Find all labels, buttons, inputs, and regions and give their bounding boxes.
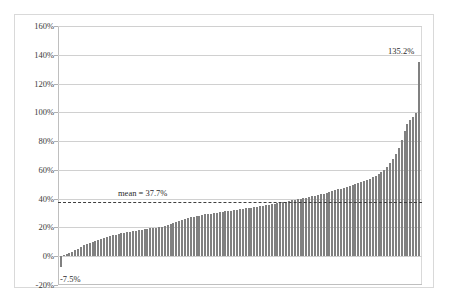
bar	[77, 249, 79, 256]
bar	[386, 167, 388, 256]
bar	[207, 214, 209, 256]
bar	[178, 221, 180, 256]
bar	[167, 225, 169, 256]
bar	[89, 243, 91, 256]
bar	[80, 247, 82, 256]
bar	[357, 183, 359, 256]
plot-area	[58, 26, 422, 285]
bar	[288, 201, 290, 256]
bar	[245, 208, 247, 256]
bar	[112, 235, 114, 256]
bar	[337, 189, 339, 256]
bar	[201, 215, 203, 256]
bar	[71, 252, 73, 256]
bar	[375, 176, 377, 256]
bar	[314, 196, 316, 256]
bar	[363, 181, 365, 256]
bar	[144, 229, 146, 256]
bar	[311, 196, 313, 256]
bar	[216, 213, 218, 256]
bar	[129, 232, 131, 256]
y-axis-tick-label: 120%	[4, 80, 54, 89]
bar	[268, 205, 270, 256]
bar	[109, 236, 111, 256]
bar	[60, 256, 62, 267]
bar	[74, 250, 76, 256]
bar	[233, 210, 235, 256]
bar	[204, 214, 206, 256]
bar	[401, 140, 403, 257]
bar	[300, 199, 302, 257]
bar	[239, 209, 241, 256]
bar	[248, 208, 250, 256]
bar	[294, 200, 296, 256]
bar	[242, 209, 244, 256]
bar	[369, 179, 371, 257]
bar	[418, 62, 420, 257]
bar	[323, 194, 325, 257]
bar	[230, 211, 232, 257]
bar	[164, 226, 166, 256]
bar	[170, 224, 172, 256]
bar	[132, 231, 134, 256]
bar	[409, 120, 411, 257]
bar	[334, 190, 336, 256]
y-axis-tick-label: 60%	[4, 166, 54, 175]
bar	[378, 174, 380, 256]
bar	[282, 202, 284, 256]
y-axis-tick-label: 20%	[4, 223, 54, 232]
bar	[250, 208, 252, 257]
y-axis-tick-label: 160%	[4, 22, 54, 31]
bar	[343, 188, 345, 256]
bar	[138, 230, 140, 256]
bar	[415, 113, 417, 256]
bar	[308, 197, 310, 256]
bar	[253, 207, 255, 256]
bar	[262, 206, 264, 256]
bar	[86, 244, 88, 256]
bar	[63, 255, 65, 256]
bar	[291, 200, 293, 256]
y-axis-tick-label: 80%	[4, 137, 54, 146]
bar	[158, 227, 160, 256]
bar	[172, 223, 174, 256]
chart-root: 160%140%120%100%80%60%40%20%0%-20% mean …	[0, 0, 450, 300]
y-axis-tick-label: 40%	[4, 195, 54, 204]
bar	[395, 154, 397, 256]
bar	[383, 170, 385, 256]
bar	[118, 234, 120, 256]
bar	[271, 204, 273, 256]
bar	[103, 238, 105, 256]
bar	[141, 230, 143, 256]
y-axis-tick-label: 0%	[4, 252, 54, 261]
y-axis-labels: 160%140%120%100%80%60%40%20%0%-20%	[0, 0, 54, 300]
bar	[135, 231, 137, 257]
bar	[181, 220, 183, 256]
mean-reference-line	[58, 202, 422, 203]
bar	[106, 237, 108, 256]
bar	[340, 189, 342, 257]
bar	[392, 159, 394, 256]
bar-series	[58, 26, 422, 285]
bar	[152, 228, 154, 256]
bar	[317, 195, 319, 256]
y-axis-tick-label: 100%	[4, 108, 54, 117]
bar	[305, 198, 307, 257]
bar	[276, 203, 278, 256]
bar	[161, 227, 163, 257]
bar	[92, 242, 94, 257]
bar	[349, 186, 351, 256]
bar	[354, 184, 356, 256]
bar	[210, 214, 212, 257]
bar	[222, 212, 224, 256]
bar	[224, 211, 226, 256]
bar	[146, 229, 148, 256]
bar	[360, 182, 362, 256]
bar	[412, 117, 414, 257]
bar	[155, 228, 157, 257]
bar	[213, 213, 215, 256]
bar	[227, 211, 229, 256]
bar	[115, 235, 117, 257]
bar	[389, 163, 391, 256]
bar	[68, 253, 70, 256]
